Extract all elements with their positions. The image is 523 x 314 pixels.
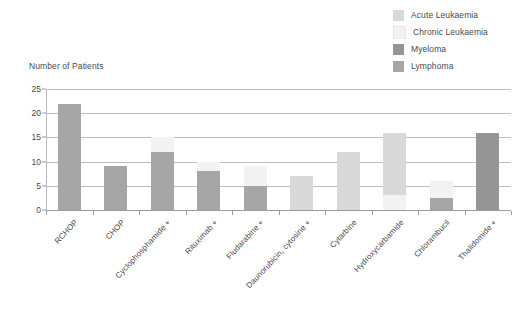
- bar-segment[interactable]: [197, 171, 220, 210]
- x-axis-label: Fludarabine +: [225, 218, 266, 261]
- y-tick-label: 0: [36, 205, 41, 215]
- x-tick-mark: [511, 211, 512, 215]
- x-tick-mark: [46, 211, 47, 215]
- x-tick-mark: [186, 211, 187, 215]
- x-tick-mark: [465, 211, 466, 215]
- legend-item[interactable]: Myeloma: [393, 42, 521, 56]
- x-axis-label: RCHOP: [53, 218, 80, 246]
- legend-swatch-icon: [393, 26, 406, 39]
- bar-segment[interactable]: [430, 198, 453, 210]
- x-tick-mark: [139, 211, 140, 215]
- bar-series-container: [46, 89, 511, 211]
- y-tick-label: 20: [32, 108, 41, 118]
- bar-segment[interactable]: [58, 104, 81, 210]
- legend-item-label: Chronic Leukaemia: [413, 27, 488, 37]
- legend-item-label: Lymphoma: [411, 61, 454, 71]
- bar-group[interactable]: [430, 89, 453, 210]
- legend-item[interactable]: Lymphoma: [393, 59, 521, 73]
- bar-segment[interactable]: [151, 152, 174, 210]
- bar-segment[interactable]: [383, 133, 406, 196]
- x-tick-mark: [325, 211, 326, 215]
- bar-group[interactable]: [197, 89, 220, 210]
- legend-item[interactable]: Chronic Leukaemia: [393, 25, 521, 39]
- x-axis-label: Hydroxycarbamide: [352, 218, 405, 274]
- chart-legend: Acute LeukaemiaChronic LeukaemiaMyelomaL…: [393, 8, 521, 76]
- bar-segment[interactable]: [430, 181, 453, 198]
- bar-group[interactable]: [476, 89, 499, 210]
- legend-swatch-icon: [393, 10, 404, 21]
- bar-segment[interactable]: [290, 176, 313, 210]
- x-axis-label: Chlorambucil: [413, 218, 452, 259]
- bar-group[interactable]: [290, 89, 313, 210]
- bar-segment[interactable]: [244, 186, 267, 210]
- bar-group[interactable]: [383, 89, 406, 210]
- plot-canvas: 0510152025: [46, 89, 511, 211]
- legend-swatch-icon: [393, 61, 404, 72]
- x-tick-mark: [93, 211, 94, 215]
- legend-item[interactable]: Acute Leukaemia: [393, 8, 521, 22]
- bar-segment[interactable]: [337, 152, 360, 210]
- bar-group[interactable]: [58, 89, 81, 210]
- bar-group[interactable]: [104, 89, 127, 210]
- bar-group[interactable]: [244, 89, 267, 210]
- bar-group[interactable]: [151, 89, 174, 210]
- bar-segment[interactable]: [383, 195, 406, 210]
- x-axis-label: Thalidomide +: [456, 218, 498, 262]
- x-tick-mark: [372, 211, 373, 215]
- x-axis-label: Rituximab +: [183, 218, 219, 256]
- bar-segment[interactable]: [476, 133, 499, 210]
- bar-segment[interactable]: [244, 166, 267, 185]
- legend-item-label: Acute Leukaemia: [411, 10, 478, 20]
- x-tick-mark: [279, 211, 280, 215]
- y-tick-label: 25: [32, 84, 41, 94]
- bar-segment[interactable]: [151, 137, 174, 152]
- y-tick-label: 10: [32, 157, 41, 167]
- y-tick-label: 5: [36, 181, 41, 191]
- legend-item-label: Myeloma: [411, 44, 446, 54]
- x-axis-label: CHOP: [104, 218, 127, 241]
- chart-title: Number of Patients: [29, 61, 104, 71]
- x-axis-labels: RCHOPCHOPCyclophosphamide +Rituximab +Fl…: [46, 211, 511, 311]
- x-tick-mark: [232, 211, 233, 215]
- bar-segment[interactable]: [197, 162, 220, 172]
- legend-swatch-icon: [393, 44, 404, 55]
- bar-group[interactable]: [337, 89, 360, 210]
- y-tick-label: 15: [32, 132, 41, 142]
- bar-segment[interactable]: [104, 166, 127, 210]
- x-axis-label: Cytarbine: [328, 218, 359, 250]
- x-tick-mark: [418, 211, 419, 215]
